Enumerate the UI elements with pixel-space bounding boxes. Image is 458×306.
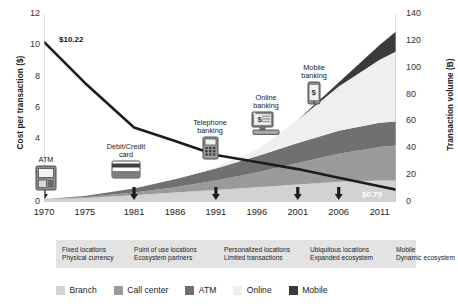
end-value-label: $0.79: [362, 190, 382, 199]
svg-text:$: $: [257, 116, 262, 125]
caption-group: Ubiquitous locationsExpanded ecosystem: [310, 246, 373, 263]
y-tick-right: 20: [406, 169, 432, 179]
caption-line-1: Fixed locations: [62, 246, 106, 253]
caption-line-1: Point of use locations: [134, 246, 197, 253]
desktop-computer-icon: $: [239, 111, 293, 140]
legend-item-mobile[interactable]: Mobile: [289, 285, 328, 295]
annotation-label: Online banking: [239, 94, 293, 110]
y-tick-right: 60: [406, 115, 432, 125]
caption-band: Fixed locationsPhysical currencyPoint of…: [56, 240, 416, 268]
atm-machine-icon: [19, 165, 73, 195]
y-tick-left: 12: [18, 8, 40, 18]
caption-line-2: Dynamic ecosystem: [396, 254, 455, 262]
annotation-label: Debit/Credit card: [99, 143, 153, 159]
start-value-label: $10.22: [59, 35, 83, 44]
legend-item-atm[interactable]: ATM: [185, 285, 216, 295]
x-axis-ticks: 197019751981198619911996200120062011: [0, 207, 458, 223]
caption-line-1: Personalized locations: [224, 246, 290, 253]
plot-area: [44, 14, 396, 202]
legend-swatch: [289, 286, 298, 295]
caption-group: Personalized locationsLimited transactio…: [224, 246, 290, 263]
legend-label: Branch: [70, 285, 97, 295]
x-tick: 1996: [246, 207, 267, 217]
caption-line-2: Ecosystem partners: [134, 254, 197, 262]
chart-legend: BranchCall centerATMOnlineMobile: [56, 281, 436, 299]
y-tick-left: 4: [18, 133, 40, 143]
svg-text:$: $: [312, 88, 317, 97]
annotation-atm: ATM: [19, 156, 73, 195]
legend-label: Online: [247, 285, 272, 295]
y-tick-left: 6: [18, 102, 40, 112]
caption-group: MobileDynamic ecosystem: [396, 246, 455, 263]
legend-label: Call center: [127, 285, 168, 295]
annotation-online-banking: Online banking $: [239, 94, 293, 140]
caption-line-2: Expanded ecosystem: [310, 254, 373, 262]
legend-swatch: [185, 286, 194, 295]
y-tick-right: 100: [406, 62, 432, 72]
x-tick: 2006: [328, 207, 349, 217]
y-tick-left: 0: [18, 196, 40, 206]
annotation-debit-credit-card: Debit/Credit card: [99, 143, 153, 183]
annotation-label: ATM: [19, 156, 73, 164]
y-tick-left: 10: [18, 39, 40, 49]
x-tick: 2011: [370, 207, 390, 217]
caption-group: Fixed locationsPhysical currency: [62, 246, 114, 263]
credit-card-icon: [99, 160, 153, 183]
legend-swatch: [233, 286, 242, 295]
x-tick: 1991: [206, 207, 227, 217]
caption-line-2: Physical currency: [62, 254, 114, 262]
y-tick-left: 8: [18, 71, 40, 81]
legend-item-online[interactable]: Online: [233, 285, 271, 295]
x-tick: 1986: [165, 207, 186, 217]
x-tick: 1975: [75, 207, 96, 217]
caption-line-1: Mobile: [396, 246, 415, 253]
legend-label: ATM: [199, 285, 217, 295]
legend-label: Mobile: [302, 285, 327, 295]
x-tick: 2001: [287, 207, 308, 217]
annotation-mobile-banking: Mobile banking $: [287, 64, 341, 109]
y-tick-right: 0: [406, 196, 432, 206]
y-tick-right: 120: [406, 35, 432, 45]
annotation-label: Telephone banking: [183, 119, 237, 135]
y-tick-right: 80: [406, 89, 432, 99]
annotation-telephone-banking: Telephone banking: [183, 119, 237, 164]
legend-item-branch[interactable]: Branch: [56, 285, 97, 295]
legend-item-call-center[interactable]: Call center: [114, 285, 169, 295]
mobile-phone-icon: $: [287, 81, 341, 109]
chart-figure: Cost per transaction ($) Transaction vol…: [0, 0, 458, 306]
telephone-icon: [183, 136, 237, 164]
caption-line-1: Ubiquitous locations: [310, 246, 369, 253]
x-tick: 1981: [124, 207, 145, 217]
caption-group: Point of use locationsEcosystem partners: [134, 246, 197, 263]
caption-line-2: Limited transactions: [224, 254, 290, 262]
y-axis-left-ticks: 024681012: [14, 0, 40, 306]
legend-swatch: [114, 286, 123, 295]
legend-swatch: [56, 286, 65, 295]
y-tick-right: 140: [406, 8, 432, 18]
x-tick: 1970: [34, 207, 55, 217]
y-tick-right: 40: [406, 142, 432, 152]
y-axis-right-title: Transaction volume (B): [446, 45, 455, 165]
plot-svg: [44, 14, 396, 202]
annotation-label: Mobile banking: [287, 64, 341, 80]
